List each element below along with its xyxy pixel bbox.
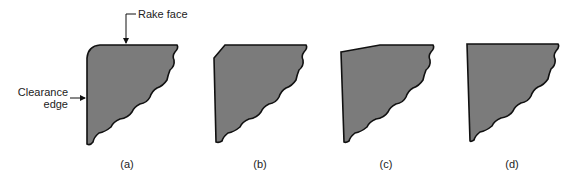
tool-profile-c <box>341 45 434 142</box>
tool-profile-b <box>214 45 307 142</box>
tool-profile-a <box>87 45 178 145</box>
panel-a-rounded-edge: Rake face Clearance edge (a) <box>18 8 188 170</box>
clearance-label-line2: edge <box>44 98 68 110</box>
panel-label-a: (a) <box>120 158 133 170</box>
cutting-edge-diagram: Rake face Clearance edge (a) (b) (c) (d) <box>0 0 578 184</box>
panel-label-d: (d) <box>505 158 518 170</box>
panel-d-sharp-edge: (d) <box>467 44 559 170</box>
clearance-label-line1: Clearance <box>18 86 68 98</box>
panel-label-c: (c) <box>380 158 393 170</box>
tool-profile-d <box>467 44 559 141</box>
panel-label-b: (b) <box>253 158 266 170</box>
panel-c-negative-land: (c) <box>341 45 434 170</box>
panel-b-chamfer: (b) <box>214 45 307 170</box>
rake-face-label: Rake face <box>138 8 188 20</box>
rake-face-leader <box>126 14 136 43</box>
